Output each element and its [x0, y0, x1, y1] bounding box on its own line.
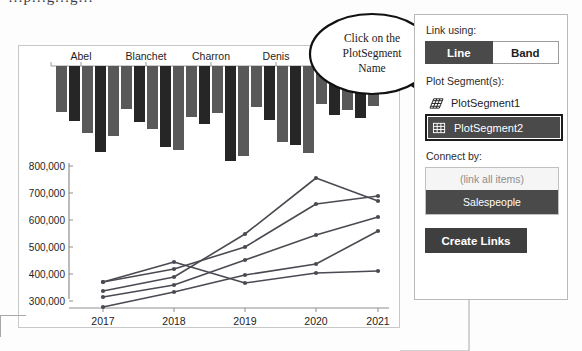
plot-segment-selection-highlight: PlotSegment2 — [425, 114, 563, 141]
connector-stub-box — [0, 315, 26, 337]
plot-segment-name: PlotSegment1 — [451, 97, 520, 109]
link-using-toggle[interactable]: Line Band — [425, 41, 559, 64]
line-plot-segment: 800,000 700,000 600,000 500,000 400,000 … — [29, 161, 390, 327]
x-tick-label: 2017 — [91, 315, 115, 327]
grid-icon — [432, 121, 447, 135]
bar — [251, 66, 262, 107]
bar — [238, 66, 249, 156]
bar — [160, 66, 171, 147]
x-tick-label: 2018 — [162, 315, 186, 327]
connect-by-list: (link all items) Salespeople — [425, 167, 559, 215]
create-links-button[interactable]: Create Links — [425, 228, 527, 253]
connector-lines — [400, 300, 582, 351]
bar — [82, 66, 93, 133]
bar — [56, 66, 67, 112]
bar — [186, 66, 197, 117]
y-tick-label: 300,000 — [29, 296, 66, 307]
y-tick-label: 500,000 — [29, 242, 66, 253]
link-using-label: Link using: — [426, 24, 557, 36]
bar — [121, 66, 132, 109]
bar-category-label: Denis — [263, 50, 290, 62]
bar-category-label: Charron — [192, 50, 230, 62]
connect-by-option-salespeople[interactable]: Salespeople — [426, 190, 558, 214]
bar — [199, 66, 210, 124]
callout-line-2: PlotSegment — [322, 46, 422, 61]
bar — [147, 66, 158, 129]
line-series — [103, 217, 378, 297]
line-series — [103, 231, 378, 307]
bar — [134, 66, 145, 122]
link-using-option-band[interactable]: Band — [493, 41, 560, 64]
bar — [212, 66, 223, 113]
callout-line-1: Click on the — [322, 31, 422, 46]
y-tick-label: 700,000 — [29, 188, 66, 199]
callout-text: Click on the PlotSegment Name — [322, 31, 422, 76]
plot-segment-item-2[interactable]: PlotSegment2 — [428, 117, 560, 138]
line-series — [103, 196, 378, 282]
plot-segment-name: PlotSegment2 — [454, 122, 523, 134]
bar — [277, 66, 288, 142]
y-tick-label: 800,000 — [29, 161, 66, 172]
bar — [290, 66, 301, 145]
x-tick-label: 2021 — [366, 315, 390, 327]
line-markers — [101, 176, 380, 309]
link-creation-panel: Link using: Line Band Plot Segment(s): — [414, 14, 568, 300]
cropped-heading-text: …p…g…g… — [8, 0, 93, 6]
plot-segment-list: PlotSegment1 PlotSegment2 — [425, 92, 557, 141]
bar-category-label: Blanchet — [126, 50, 167, 62]
bar — [108, 66, 119, 136]
plot-segment-item-1[interactable]: PlotSegment1 — [425, 92, 557, 113]
x-tick-label: 2020 — [304, 315, 328, 327]
plot-segments-label: Plot Segment(s): — [426, 75, 557, 87]
bar — [173, 66, 184, 150]
bar-category-label: Abel — [70, 50, 91, 62]
link-using-option-line[interactable]: Line — [425, 41, 493, 64]
callout-line-3: Name — [322, 61, 422, 76]
screenshot-root: …p…g…g… Abel Blanchet Charron Denis — [0, 0, 582, 351]
connect-by-option-all[interactable]: (link all items) — [426, 168, 558, 190]
skewed-grid-icon — [429, 96, 444, 110]
bar — [95, 66, 106, 152]
bar — [225, 66, 236, 161]
bar — [69, 66, 80, 121]
bar — [264, 66, 275, 120]
y-tick-label: 400,000 — [29, 269, 66, 280]
x-tick-label: 2019 — [233, 315, 257, 327]
y-tick-label: 600,000 — [29, 215, 66, 226]
line-series — [103, 262, 378, 283]
connect-by-label: Connect by: — [426, 150, 557, 162]
